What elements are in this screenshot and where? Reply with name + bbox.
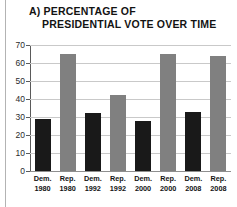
x-tick-label-dem-1992: Dem.1992 bbox=[80, 174, 105, 193]
x-tick-label-rep-2000: Rep.2000 bbox=[156, 174, 181, 193]
x-tick-label-rep-1980: Rep.1980 bbox=[55, 174, 80, 193]
y-tick-label-10: 10 bbox=[1, 149, 25, 157]
bar-rep-1992 bbox=[110, 95, 126, 171]
y-tick-label-50: 50 bbox=[1, 77, 25, 85]
x-label-year: 1992 bbox=[105, 184, 130, 194]
y-tick-label-60: 60 bbox=[1, 59, 25, 67]
gridline-70 bbox=[30, 45, 231, 46]
y-tick-label-0: 0 bbox=[1, 167, 25, 175]
x-label-party: Rep. bbox=[156, 174, 181, 184]
x-axis-tick-labels: Dem.1980Rep.1980Dem.1992Rep.1992Dem.2000… bbox=[30, 174, 231, 204]
bar-dem-1992 bbox=[85, 113, 101, 171]
x-label-year: 1980 bbox=[55, 184, 80, 194]
chart-title-line-1: a) PERCENTAGE OF bbox=[29, 5, 234, 18]
x-tick-label-dem-2000: Dem.2000 bbox=[131, 174, 156, 193]
x-label-party: Rep. bbox=[206, 174, 231, 184]
x-tick-label-rep-1992: Rep.1992 bbox=[105, 174, 130, 193]
bar-dem-2008 bbox=[185, 112, 201, 171]
y-tick-label-30: 30 bbox=[1, 113, 25, 121]
x-tick-label-rep-2008: Rep.2008 bbox=[206, 174, 231, 193]
x-label-party: Dem. bbox=[80, 174, 105, 184]
x-label-year: 2008 bbox=[206, 184, 231, 194]
chart-figure: a) PERCENTAGE OF PRESIDENTIAL VOTE OVER … bbox=[0, 0, 237, 207]
x-tick-label-dem-2008: Dem.2008 bbox=[181, 174, 206, 193]
x-label-year: 2000 bbox=[131, 184, 156, 194]
bar-dem-1980 bbox=[35, 119, 51, 171]
x-label-year: 1980 bbox=[30, 184, 55, 194]
x-label-party: Dem. bbox=[30, 174, 55, 184]
chart-title: a) PERCENTAGE OF PRESIDENTIAL VOTE OVER … bbox=[29, 5, 234, 31]
x-label-year: 2000 bbox=[156, 184, 181, 194]
bar-rep-2008 bbox=[210, 56, 226, 171]
x-label-year: 1992 bbox=[80, 184, 105, 194]
y-axis-tick-labels: 010203040506070 bbox=[0, 0, 25, 207]
x-label-party: Dem. bbox=[131, 174, 156, 184]
x-label-party: Dem. bbox=[181, 174, 206, 184]
x-label-party: Rep. bbox=[55, 174, 80, 184]
x-label-year: 2008 bbox=[181, 184, 206, 194]
y-tick-label-20: 20 bbox=[1, 131, 25, 139]
bar-rep-2000 bbox=[160, 54, 176, 171]
y-tick-label-70: 70 bbox=[1, 41, 25, 49]
x-label-party: Rep. bbox=[105, 174, 130, 184]
chart-title-line-2: PRESIDENTIAL VOTE OVER TIME bbox=[29, 18, 234, 31]
y-tick-label-40: 40 bbox=[1, 95, 25, 103]
bar-dem-2000 bbox=[135, 121, 151, 171]
plot-area bbox=[30, 45, 231, 171]
x-tick-label-dem-1980: Dem.1980 bbox=[30, 174, 55, 193]
gridline-0 bbox=[30, 171, 231, 172]
bar-rep-1980 bbox=[60, 54, 76, 171]
